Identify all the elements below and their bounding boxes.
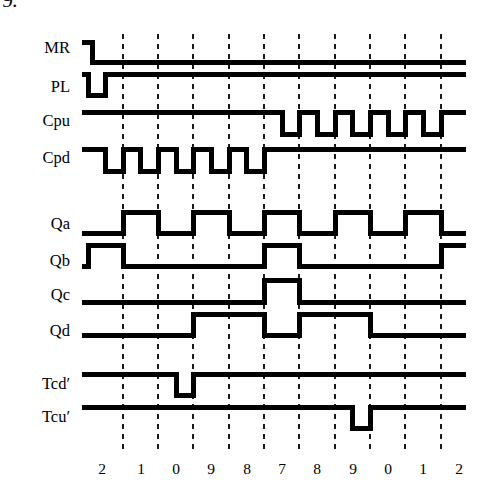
waveform-tcd: [82, 374, 466, 395]
count-label-3: 9: [198, 461, 224, 477]
count-label-0: 2: [89, 461, 115, 477]
count-label-6: 8: [304, 461, 330, 477]
waveform-qa: [82, 212, 466, 233]
count-label-9: 1: [410, 461, 436, 477]
waveform-qc: [82, 280, 466, 302]
count-label-10: 2: [446, 461, 472, 477]
count-label-7: 9: [340, 461, 366, 477]
count-label-5: 7: [269, 461, 295, 477]
count-label-4: 8: [234, 461, 260, 477]
timing-diagram-figure: 9. MR PL Cpu Cpd Qa Qb Qc Qd Tcd′ Tcu′: [0, 0, 489, 494]
waveform-tcu: [82, 407, 466, 428]
count-label-8: 0: [375, 461, 401, 477]
waveform-mr: [82, 42, 466, 62]
count-label-2: 0: [163, 461, 189, 477]
waveform-cpu: [82, 112, 466, 134]
count-label-1: 1: [128, 461, 154, 477]
waveform-qb: [82, 245, 466, 266]
waveform-pl: [82, 74, 466, 95]
waveform-qd: [82, 314, 466, 335]
waveform-canvas: [0, 0, 489, 494]
waveform-svg: [0, 0, 489, 494]
waveform-cpd: [82, 149, 466, 171]
waveform-traces: [82, 42, 466, 428]
